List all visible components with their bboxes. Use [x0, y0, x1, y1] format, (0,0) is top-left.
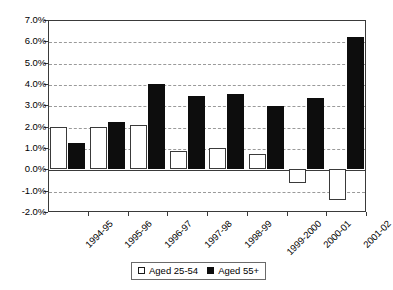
x-axis-tick-mark	[88, 212, 89, 216]
bar-aged-25-54	[130, 125, 147, 170]
bar-group	[326, 20, 366, 212]
bar-aged-55-plus	[227, 94, 244, 170]
y-axis-tick-label: 6.0%	[2, 36, 46, 46]
legend-label-aged-25-54: Aged 25-54	[149, 265, 198, 276]
y-axis-tick-label: 1.0%	[2, 143, 46, 153]
x-axis-tick-mark	[167, 212, 168, 216]
filled-square-icon	[207, 267, 214, 274]
y-axis-tick-label: 2.0%	[2, 122, 46, 132]
legend-entry-aged-25-54: Aged 25-54	[138, 265, 198, 276]
x-axis-category-label: 2000-01	[321, 218, 353, 250]
legend-entry-aged-55-plus: Aged 55+	[207, 265, 259, 276]
bar-aged-25-54	[329, 169, 346, 200]
x-axis-tick-mark	[207, 212, 208, 216]
y-axis-tick-label: 0.0%	[2, 164, 46, 174]
bar-group	[128, 20, 168, 212]
bar-aged-25-54	[50, 127, 67, 170]
bar-aged-25-54	[289, 169, 306, 183]
y-axis-tick-label: 5.0%	[2, 58, 46, 68]
x-axis-category-label: 1996-97	[162, 218, 194, 250]
x-axis-tick-mark	[247, 212, 248, 216]
y-axis-tick-label: 4.0%	[2, 79, 46, 89]
bar-group	[287, 20, 327, 212]
bar-aged-55-plus	[347, 37, 364, 169]
bar-aged-55-plus	[108, 122, 125, 169]
x-axis-category-label: 1998-99	[242, 218, 274, 250]
y-axis-tick-label: -1.0%	[2, 186, 46, 196]
y-axis-tick-label: -2.0%	[2, 207, 46, 217]
bar-aged-25-54	[209, 148, 226, 169]
bar-aged-25-54	[249, 154, 266, 169]
bar-aged-55-plus	[267, 106, 284, 169]
hollow-square-icon	[138, 267, 145, 274]
bar-aged-55-plus	[68, 143, 85, 170]
bar-group	[207, 20, 247, 212]
bar-aged-55-plus	[188, 96, 205, 170]
bar-aged-25-54	[90, 127, 107, 170]
y-axis-tick-label: 3.0%	[2, 100, 46, 110]
x-axis-tick-mark	[128, 212, 129, 216]
bar-group	[167, 20, 207, 212]
bar-aged-55-plus	[148, 84, 165, 169]
bar-aged-25-54	[170, 151, 187, 169]
bar-group	[247, 20, 287, 212]
bar-group	[48, 20, 88, 212]
x-axis-category-label: 1999-2000	[284, 218, 323, 257]
x-axis-tick-mark	[326, 212, 327, 216]
legend-label-aged-55-plus: Aged 55+	[218, 265, 259, 276]
x-axis-category-label: 1995-96	[122, 218, 154, 250]
x-axis-category-label: 1994-95	[83, 218, 115, 250]
y-axis-tick-label: 7.0%	[2, 15, 46, 25]
bar-aged-55-plus	[307, 98, 324, 169]
x-axis-tick-mark	[287, 212, 288, 216]
bar-series-layer	[48, 20, 366, 212]
x-axis-category-label: 1997-98	[202, 218, 234, 250]
bar-group	[88, 20, 128, 212]
x-axis-tick-mark	[366, 212, 367, 216]
chart-legend: Aged 25-54 Aged 55+	[131, 262, 266, 280]
x-axis-category-label: 2001-02	[361, 218, 393, 250]
